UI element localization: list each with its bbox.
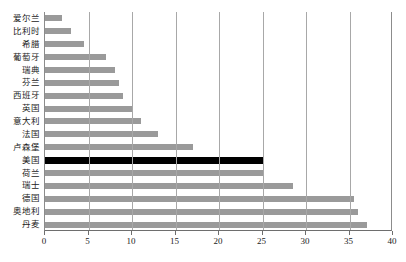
category-label: 瑞士: [22, 179, 40, 192]
bar-row: [45, 25, 71, 38]
bar-row: [45, 218, 367, 231]
bar-row: [45, 76, 119, 89]
x-tick-label: 35: [344, 236, 353, 246]
x-tick-label: 15: [170, 236, 179, 246]
bar: [45, 28, 71, 34]
bar-row: [45, 89, 123, 102]
bar: [45, 67, 115, 73]
bar: [45, 222, 367, 228]
bar-row: [45, 179, 293, 192]
bar-row: [45, 128, 158, 141]
gridline: [176, 12, 177, 230]
bar: [45, 41, 84, 47]
category-label: 荷兰: [22, 167, 40, 180]
category-label: 法国: [22, 128, 40, 141]
gridline: [263, 12, 264, 230]
category-label: 卢森堡: [13, 141, 40, 154]
x-axis-tick-labels: 0510152025303540: [44, 236, 392, 250]
x-tick-mark: [44, 231, 45, 235]
bar: [45, 118, 141, 124]
bar-highlighted: [45, 157, 263, 164]
bar-row: [45, 64, 115, 77]
category-axis-labels: 爱尔兰比利时希腊葡萄牙瑞典芬兰西班牙英国意大利法国卢森堡美国荷兰瑞士德国奥地利丹…: [0, 12, 42, 231]
x-tick-mark: [88, 231, 89, 235]
x-tick-mark: [262, 231, 263, 235]
bar-row: [45, 205, 358, 218]
bar: [45, 196, 354, 202]
x-tick-label: 20: [214, 236, 223, 246]
bar-series: [45, 12, 391, 230]
x-tick-mark: [305, 231, 306, 235]
category-label: 西班牙: [13, 89, 40, 102]
category-label: 奥地利: [13, 205, 40, 218]
x-tick-mark: [349, 231, 350, 235]
category-label: 德国: [22, 192, 40, 205]
bar: [45, 15, 62, 21]
bar: [45, 170, 263, 176]
bar-row: [45, 141, 193, 154]
bar: [45, 80, 119, 86]
category-label: 丹麦: [22, 218, 40, 231]
bar: [45, 131, 158, 137]
bar: [45, 93, 123, 99]
bar-row: [45, 51, 106, 64]
x-tick-mark: [175, 231, 176, 235]
category-label: 英国: [22, 102, 40, 115]
bar: [45, 209, 358, 215]
x-tick-label: 40: [388, 236, 397, 246]
category-label: 比利时: [13, 25, 40, 38]
bar-row: [45, 192, 354, 205]
gridline: [350, 12, 351, 230]
x-tick-mark: [218, 231, 219, 235]
horizontal-bar-chart: 爱尔兰比利时希腊葡萄牙瑞典芬兰西班牙英国意大利法国卢森堡美国荷兰瑞士德国奥地利丹…: [0, 0, 406, 262]
category-label: 瑞典: [22, 64, 40, 77]
x-tick-label: 30: [301, 236, 310, 246]
bar-row: [45, 154, 263, 167]
gridline: [132, 12, 133, 230]
plot-area: [44, 12, 392, 231]
x-tick-label: 10: [127, 236, 136, 246]
category-label: 希腊: [22, 38, 40, 51]
gridline: [306, 12, 307, 230]
x-tick-mark: [131, 231, 132, 235]
category-label: 美国: [22, 154, 40, 167]
category-label: 芬兰: [22, 76, 40, 89]
gridline: [219, 12, 220, 230]
bar-row: [45, 115, 141, 128]
bar: [45, 183, 293, 189]
x-tick-label: 25: [257, 236, 266, 246]
bar-row: [45, 167, 263, 180]
bar-row: [45, 38, 84, 51]
gridline: [89, 12, 90, 230]
bar: [45, 144, 193, 150]
bar: [45, 54, 106, 60]
bar-row: [45, 12, 62, 25]
x-tick-label: 5: [85, 236, 90, 246]
x-tick-label: 0: [42, 236, 47, 246]
category-label: 意大利: [13, 115, 40, 128]
category-label: 葡萄牙: [13, 51, 40, 64]
category-label: 爱尔兰: [13, 12, 40, 25]
x-tick-mark: [392, 231, 393, 235]
